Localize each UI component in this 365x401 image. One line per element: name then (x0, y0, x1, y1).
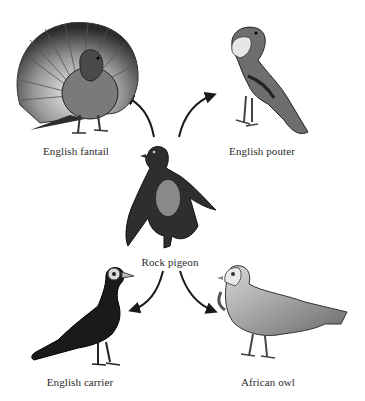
label-english-carrier: English carrier (47, 376, 114, 388)
arrow-to-pouter (179, 95, 213, 137)
pigeon-breeds-diagram: English fantail English pouter Rock pige… (0, 0, 365, 401)
english-pouter-illustration (212, 24, 312, 139)
label-african-owl: African owl (241, 376, 295, 388)
arrow-to-owl (180, 271, 214, 311)
label-rock-pigeon: Rock pigeon (141, 256, 198, 268)
african-owl-illustration (213, 262, 353, 367)
label-english-fantail: English fantail (43, 145, 109, 157)
label-english-pouter: English pouter (229, 145, 295, 157)
english-carrier-illustration (28, 262, 138, 372)
rock-pigeon-illustration (120, 142, 220, 252)
english-fantail-illustration (10, 15, 150, 140)
